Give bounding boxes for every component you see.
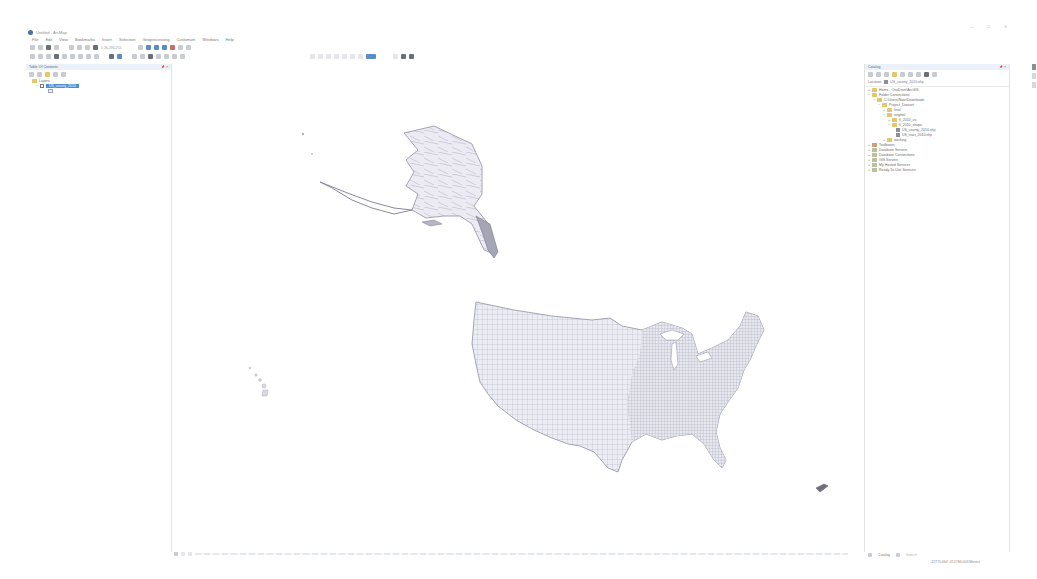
close-icon[interactable]: × [1004,65,1006,69]
new-document-icon[interactable] [30,45,35,50]
find-route-icon[interactable] [140,54,145,59]
disconnect-folder-icon[interactable] [908,72,913,77]
save-icon[interactable] [46,45,51,50]
data-view-icon[interactable] [409,54,414,59]
folder-icon [877,98,882,102]
shapefile-icon [896,128,900,132]
python-icon[interactable] [178,45,183,50]
layer-visibility-checkbox[interactable] [40,84,44,88]
maximize-button[interactable]: □ [988,24,990,29]
views-icon[interactable] [916,72,921,77]
close-button[interactable]: ✕ [1004,24,1007,29]
full-extent-icon[interactable] [54,54,59,59]
model-builder-icon[interactable] [186,45,191,50]
rectangle-icon[interactable] [318,54,323,59]
toggle-contents-icon[interactable] [932,72,937,77]
menu-help[interactable]: Help [226,37,234,42]
map-display[interactable] [172,64,848,552]
menu-selection[interactable]: Selection [119,37,135,42]
arctoolbox-icon[interactable] [170,45,175,50]
find-icon[interactable] [132,54,137,59]
forward-extent-icon[interactable] [86,54,91,59]
standard-toolbar: 1:26,294,255 [30,44,191,51]
refresh-icon[interactable] [924,72,929,77]
editor-icon[interactable] [138,45,143,50]
collapse-icon[interactable]: − [36,84,38,88]
zoom-out-icon[interactable] [38,54,43,59]
fill-color-icon[interactable] [366,54,376,59]
delete-icon[interactable] [69,45,74,50]
text-icon[interactable] [326,54,331,59]
menu-bookmarks[interactable]: Bookmarks [75,37,95,42]
fixed-zoom-in-icon[interactable] [62,54,67,59]
back-extent-icon[interactable] [78,54,83,59]
open-icon[interactable] [38,45,43,50]
forward-icon[interactable] [876,72,881,77]
create-viewer-icon[interactable] [180,54,185,59]
menu-geoprocessing[interactable]: Geoprocessing [142,37,169,42]
menu-edit[interactable]: Edit [45,37,52,42]
catalog-tree-item[interactable]: +Ready-To-Use Services [868,167,1009,172]
line-color-icon[interactable] [393,54,398,59]
select-elements-icon[interactable] [109,54,114,59]
measure-icon[interactable] [148,54,153,59]
map-scale-input[interactable]: 1:26,294,255 [101,46,121,50]
list-by-visibility-icon[interactable] [45,72,50,77]
pause-drawing-button[interactable] [188,552,192,556]
search-window-icon[interactable] [162,45,167,50]
menu-insert[interactable]: Insert [102,37,112,42]
pan-icon[interactable] [46,54,51,59]
list-by-selection-icon[interactable] [53,72,58,77]
toc-window-icon[interactable] [146,45,151,50]
catalog-window-icon[interactable] [154,45,159,50]
zoom-in-icon[interactable] [30,54,35,59]
bold-icon[interactable] [342,54,347,59]
location-bar: Location: US_county_2010.shp [865,78,1009,86]
polygon-symbol-icon[interactable] [48,89,53,93]
layout-view-icon[interactable] [401,54,406,59]
back-icon[interactable] [868,72,873,77]
refresh-button[interactable] [181,552,185,556]
minimize-button[interactable]: — [970,24,974,29]
fixed-zoom-out-icon[interactable] [70,54,75,59]
layer-symbol[interactable] [32,88,171,93]
search-tab[interactable] [1032,73,1036,79]
redo-icon[interactable] [85,45,90,50]
home-icon[interactable] [892,72,897,77]
draw-tool-icon[interactable] [310,54,315,59]
menu-file[interactable]: File [32,37,38,42]
database-server-icon [872,148,877,152]
search-tab[interactable]: Search [906,553,917,557]
select-features-icon[interactable] [94,54,99,59]
identify-icon[interactable] [117,54,122,59]
horizontal-scrollbar[interactable] [195,553,848,555]
shapefile-icon [896,133,900,137]
folder-icon [892,123,897,127]
underline-icon[interactable] [358,54,363,59]
pin-icon[interactable]: 📌 [999,65,1003,69]
list-by-source-icon[interactable] [37,72,42,77]
layout-view-button[interactable] [174,552,178,556]
time-slider-icon[interactable] [172,54,177,59]
add-data-icon[interactable] [93,45,98,50]
undo-icon[interactable] [77,45,82,50]
hyperlink-icon[interactable] [156,54,161,59]
location-input[interactable]: US_county_2010.shp [890,80,923,84]
arctoolbox-tab[interactable] [1032,64,1036,70]
menu-windows[interactable]: Windows [202,37,218,42]
connect-folder-icon[interactable] [900,72,905,77]
menu-customize[interactable]: Customize [176,37,195,42]
catalog-tab[interactable]: Catalog [878,553,890,557]
pin-icon[interactable]: 📌 [161,65,165,69]
options-icon[interactable] [61,72,66,77]
font-icon[interactable] [334,54,339,59]
html-popup-icon[interactable] [164,54,169,59]
up-one-level-icon[interactable] [884,72,889,77]
results-tab[interactable] [1032,82,1036,88]
print-icon[interactable] [54,45,59,50]
layer-name[interactable]: US_county_2010 [46,84,79,88]
menu-view[interactable]: View [59,37,68,42]
list-by-drawing-order-icon[interactable] [29,72,34,77]
close-icon[interactable]: × [166,65,168,69]
italic-icon[interactable] [350,54,355,59]
